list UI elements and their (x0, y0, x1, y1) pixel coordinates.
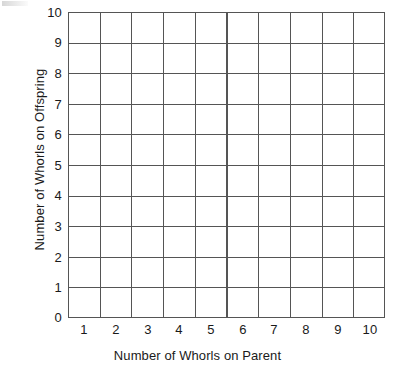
x-tick-label: 1 (80, 323, 87, 336)
plot-area[interactable] (68, 12, 385, 318)
y-axis-title: Number of Whorls on Offspring (32, 10, 47, 310)
x-tick-label: 2 (112, 323, 119, 336)
x-tick-label: 4 (175, 323, 182, 336)
x-tick-label: 9 (334, 323, 341, 336)
grid-lines (68, 12, 385, 318)
x-tick-label: 8 (302, 323, 309, 336)
graph-figure: 10 9 8 7 6 5 4 3 2 1 0 1 2 3 4 5 6 7 8 9… (0, 0, 395, 369)
x-tick-label: 5 (207, 323, 214, 336)
x-tick-label: 6 (239, 323, 246, 336)
x-tick-label: 7 (270, 323, 277, 336)
x-tick-label: 3 (144, 323, 151, 336)
x-tick-label: 10 (363, 323, 378, 336)
x-axis-title: Number of Whorls on Parent (0, 348, 395, 363)
x-axis-tick-labels: 1 2 3 4 5 6 7 8 9 10 (0, 323, 395, 341)
